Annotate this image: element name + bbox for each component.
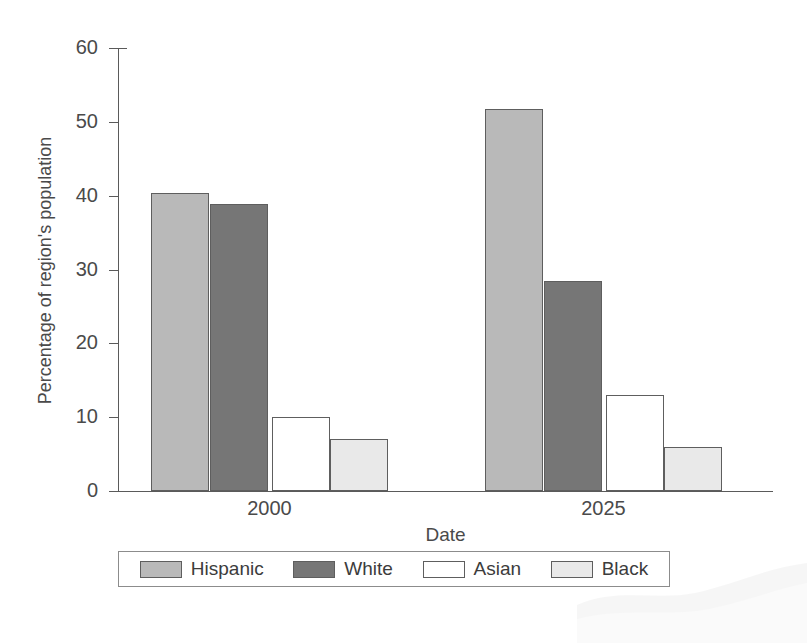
legend-swatch-white xyxy=(293,561,335,578)
plot-area xyxy=(118,48,772,491)
y-axis-tick xyxy=(109,48,118,49)
y-axis-tick-label: 0 xyxy=(28,480,98,500)
legend-label: Black xyxy=(602,558,648,580)
legend-label: Asian xyxy=(474,558,522,580)
y-axis-tick-label: 30 xyxy=(28,259,98,279)
bar-hispanic-2000 xyxy=(151,193,209,491)
legend-swatch-hispanic xyxy=(140,561,182,578)
legend-label: Hispanic xyxy=(191,558,264,580)
y-axis-tick-label: 40 xyxy=(28,185,98,205)
y-axis-tick xyxy=(109,196,118,197)
y-axis-tick xyxy=(109,270,118,271)
bar-asian-2025 xyxy=(606,395,664,491)
y-axis-tick xyxy=(109,343,118,344)
y-axis-tick-label: 60 xyxy=(28,37,98,57)
y-axis-tick xyxy=(109,122,118,123)
bar-white-2000 xyxy=(210,204,268,491)
x-axis-title: Date xyxy=(118,524,773,546)
x-axis-line xyxy=(118,491,773,492)
legend-swatch-asian xyxy=(423,561,465,578)
y-axis-tick-label: 20 xyxy=(28,332,98,352)
bar-white-2025 xyxy=(544,281,602,491)
y-axis-tick xyxy=(109,491,118,492)
legend-entry-white[interactable]: White xyxy=(293,558,393,580)
chart-legend: HispanicWhiteAsianBlack xyxy=(118,551,670,587)
y-axis-tick xyxy=(109,417,118,418)
y-axis-tick-label: 50 xyxy=(28,111,98,131)
x-axis-category-2025: 2025 xyxy=(544,497,664,520)
bar-black-2000 xyxy=(330,439,388,491)
bar-asian-2000 xyxy=(272,417,330,491)
bar-black-2025 xyxy=(664,447,722,491)
legend-entry-black[interactable]: Black xyxy=(551,558,648,580)
legend-entry-hispanic[interactable]: Hispanic xyxy=(140,558,264,580)
bar-hispanic-2025 xyxy=(485,109,543,491)
y-axis-tick-label: 10 xyxy=(28,406,98,426)
legend-entry-asian[interactable]: Asian xyxy=(423,558,522,580)
legend-swatch-black xyxy=(551,561,593,578)
x-axis-category-2000: 2000 xyxy=(210,497,330,520)
legend-label: White xyxy=(344,558,393,580)
